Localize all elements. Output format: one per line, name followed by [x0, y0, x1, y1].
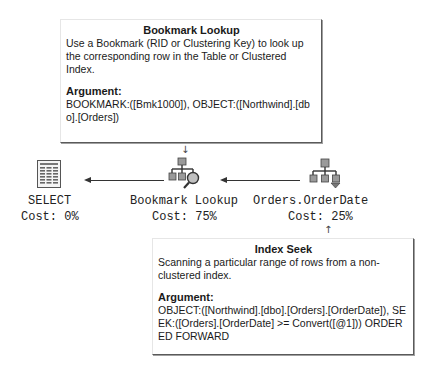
index-seek-tooltip: Index Seek Scanning a particular range o…: [152, 238, 414, 355]
tooltip-title: Bookmark Lookup: [66, 24, 317, 37]
node-label-select: SELECT: [28, 194, 71, 208]
tooltip-description: Use a Bookmark (RID or Clustering Key) t…: [66, 37, 317, 76]
tooltip-pointer-arrow-down: ↓: [181, 145, 189, 155]
edge-seek-to-bookmark: [226, 180, 300, 181]
tooltip-argument-label: Argument:: [66, 85, 317, 98]
tooltip-description: Scanning a particular range of rows from…: [158, 256, 409, 282]
node-label-bookmark-lookup: Bookmark Lookup: [130, 194, 238, 208]
edge-bookmark-to-select: [90, 180, 164, 181]
index-seek-icon[interactable]: [309, 158, 341, 194]
tooltip-title: Index Seek: [158, 243, 409, 256]
select-result-icon[interactable]: [37, 160, 61, 192]
bookmark-lookup-tooltip: Bookmark Lookup Use a Bookmark (RID or C…: [60, 19, 322, 143]
node-label-orders-orderdate: Orders.OrderDate: [253, 194, 368, 208]
tooltip-argument-text: BOOKMARK:([Bmk1000]), OBJECT:([Northwind…: [66, 98, 317, 124]
tooltip-argument-label: Argument:: [158, 291, 409, 304]
node-cost-select: Cost: 0%: [21, 210, 79, 224]
node-cost-orders-orderdate: Cost: 25%: [288, 210, 353, 224]
tooltip-argument-text: OBJECT:([Northwind].[dbo].[Orders].[Orde…: [158, 304, 409, 343]
bookmark-lookup-icon[interactable]: [168, 157, 202, 193]
node-cost-bookmark-lookup: Cost: 75%: [152, 210, 217, 224]
tooltip-pointer-arrow-up: ↑: [324, 225, 332, 235]
